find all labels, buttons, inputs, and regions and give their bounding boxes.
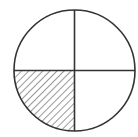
fraction-circle-diagram <box>0 0 138 137</box>
